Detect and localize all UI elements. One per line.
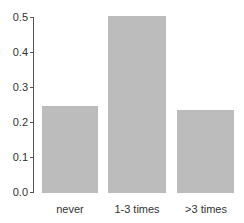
y-tick-label: 0.5 (0, 11, 28, 23)
bar-never (42, 106, 98, 194)
y-tick (30, 52, 34, 53)
y-tick (30, 192, 34, 193)
y-tick (30, 17, 34, 18)
bar-chart: 0.0 0.1 0.2 0.3 0.4 0.5 never 1-3 times … (0, 0, 244, 223)
y-tick-label: 0.1 (0, 151, 28, 163)
y-tick-label: 0.4 (0, 46, 28, 58)
x-category-label: never (42, 203, 98, 215)
y-tick (30, 157, 34, 158)
bar-more-than-3-times (177, 110, 234, 193)
x-category-label: 1-3 times (103, 203, 171, 215)
y-tick (30, 87, 34, 88)
y-tick-label: 0.3 (0, 81, 28, 93)
bar-1-3-times (108, 16, 166, 193)
x-category-label: >3 times (172, 203, 240, 215)
y-axis (33, 17, 34, 193)
y-tick-label: 0.2 (0, 116, 28, 128)
y-tick-label: 0.0 (0, 186, 28, 198)
y-tick (30, 122, 34, 123)
